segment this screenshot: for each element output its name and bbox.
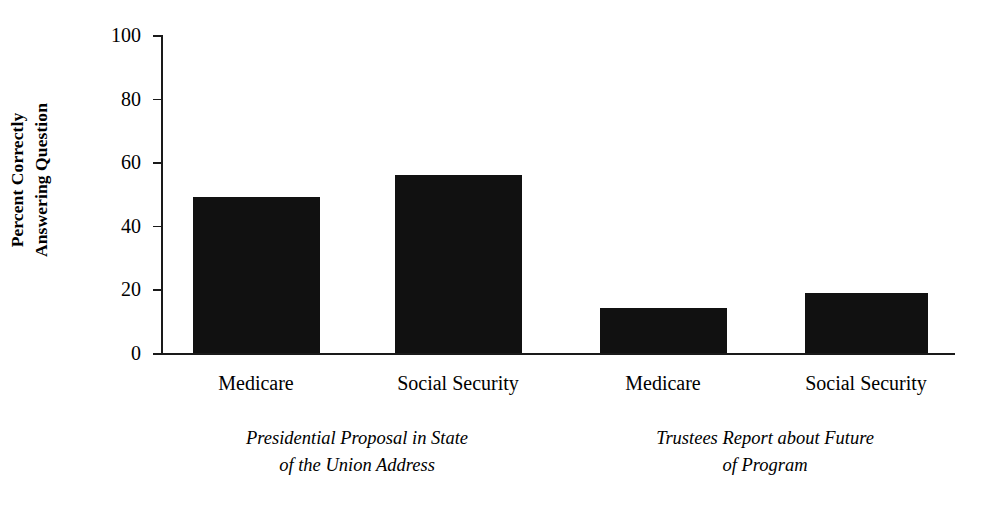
plot-area: 100 80 60 40 20 0 bbox=[161, 35, 955, 353]
y-axis-tick-40: 40 bbox=[153, 226, 161, 228]
bar-social-security-trustees bbox=[805, 293, 928, 353]
y-axis-title-line-1: Percent Correctly bbox=[5, 103, 29, 257]
y-axis-tick-label-40: 40 bbox=[121, 216, 141, 236]
y-axis-line bbox=[161, 35, 163, 353]
group-caption-presidential-line-1: Presidential Proposal in State bbox=[246, 425, 468, 452]
y-axis-tick-label-100: 100 bbox=[111, 25, 141, 45]
y-axis-tick-80: 80 bbox=[153, 99, 161, 101]
group-caption-presidential-line-2: of the Union Address bbox=[246, 452, 468, 479]
y-axis-title-text: Percent Correctly Answering Question bbox=[5, 103, 53, 257]
group-caption-trustees-line-1: Trustees Report about Future bbox=[656, 425, 874, 452]
x-axis-line bbox=[161, 353, 955, 355]
x-axis-label-social-security-trustees: Social Security bbox=[805, 372, 927, 395]
y-axis-title-line-2: Answering Question bbox=[29, 103, 53, 257]
y-axis-tick-60: 60 bbox=[153, 162, 161, 164]
bar-social-security-presidential bbox=[395, 175, 522, 353]
y-axis-tick-100: 100 bbox=[153, 35, 161, 37]
x-axis-label-social-security-presidential: Social Security bbox=[397, 372, 519, 395]
y-axis-title: Percent Correctly Answering Question bbox=[0, 0, 58, 360]
group-caption-trustees-line-2: of Program bbox=[656, 452, 874, 479]
bar-medicare-presidential bbox=[193, 197, 320, 353]
x-axis-label-medicare-trustees: Medicare bbox=[625, 372, 701, 395]
y-axis-tick-label-60: 60 bbox=[121, 152, 141, 172]
y-axis-tick-label-20: 20 bbox=[121, 279, 141, 299]
y-axis-tick-20: 20 bbox=[153, 289, 161, 291]
y-axis-tick-label-0: 0 bbox=[131, 343, 141, 363]
bar-chart-figure: Percent Correctly Answering Question 100… bbox=[0, 0, 984, 511]
group-caption-presidential-proposal: Presidential Proposal in State of the Un… bbox=[246, 425, 468, 479]
group-caption-trustees-report: Trustees Report about Future of Program bbox=[656, 425, 874, 479]
y-axis-tick-label-80: 80 bbox=[121, 89, 141, 109]
bar-medicare-trustees bbox=[600, 308, 727, 353]
x-axis-label-medicare-presidential: Medicare bbox=[218, 372, 294, 395]
y-axis-tick-0: 0 bbox=[153, 353, 161, 355]
